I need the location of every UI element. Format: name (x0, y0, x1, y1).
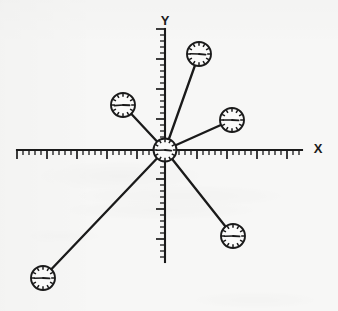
clock-hour-hand (165, 150, 171, 151)
y-axis-label: Y (161, 13, 170, 28)
connector-lines-group (43, 54, 233, 278)
upper-left-clock (111, 93, 135, 117)
lower-right-clock (221, 224, 245, 248)
clock-minute-hand (114, 105, 123, 106)
clock-hour-hand (199, 54, 206, 55)
clock-diagram-figure: X Y (0, 0, 338, 311)
upper-right-clock (187, 42, 211, 66)
connector-lower-left (43, 150, 165, 278)
right-clock (220, 108, 244, 132)
connector-upper-right (165, 54, 199, 150)
connector-lower-right (165, 150, 233, 236)
clocks-group (31, 42, 245, 290)
diagram-canvas: X Y (0, 0, 338, 311)
lower-left-clock (31, 266, 55, 290)
origin-clock (154, 139, 177, 162)
x-axis-label: X (314, 141, 323, 156)
